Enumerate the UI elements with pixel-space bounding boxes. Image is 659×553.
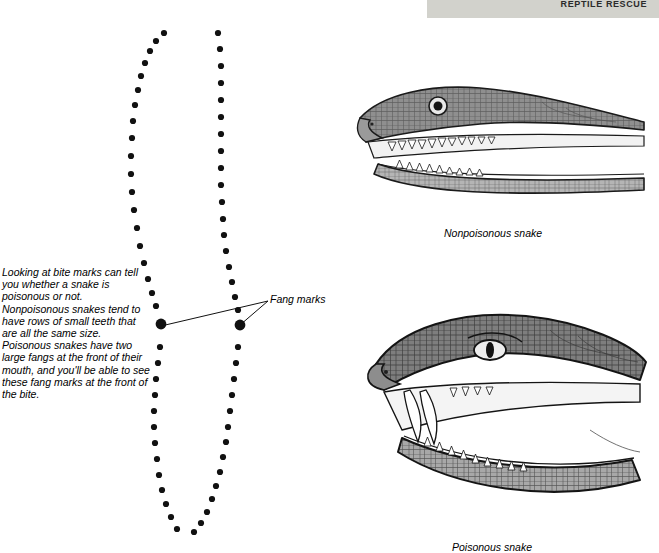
header-tab: REPTILE RESCUE xyxy=(427,0,659,18)
bite-mark-caption: Looking at bite marks can tell you wheth… xyxy=(2,266,152,400)
nonpoisonous-snake-head-illustration xyxy=(352,80,652,220)
fang-marks-leader-line xyxy=(150,285,280,345)
page-root: REPTILE RESCUE xyxy=(0,0,659,553)
fang-marks-label: Fang marks xyxy=(270,293,325,305)
nonpoisonous-snake-caption: Nonpoisonous snake xyxy=(444,227,542,239)
poisonous-snake-caption: Poisonous snake xyxy=(452,541,532,553)
header-tab-label: REPTILE RESCUE xyxy=(561,0,647,9)
poisonous-snake-head-illustration xyxy=(340,310,650,535)
